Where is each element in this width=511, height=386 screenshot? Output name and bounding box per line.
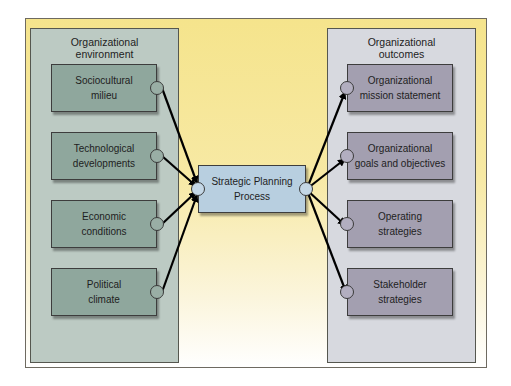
- connector-node-center-output: [299, 182, 313, 196]
- connector-node-sociocultural: [150, 81, 164, 95]
- connector-node-political: [150, 285, 164, 299]
- box-stakeholder-strategies: Stakeholder strategies: [347, 268, 453, 316]
- connector-node-operating: [340, 217, 354, 231]
- box-strategic-planning-process: Strategic Planning Process: [198, 165, 306, 213]
- connector-node-goals: [340, 149, 354, 163]
- connector-node-economic: [150, 217, 164, 231]
- box-sociocultural-milieu: Sociocultural milieu: [51, 64, 157, 112]
- connector-node-mission: [340, 81, 354, 95]
- connector-node-center-input: [191, 182, 205, 196]
- panel-title-environment: Organizational environment: [31, 36, 178, 60]
- box-mission-statement: Organizational mission statement: [347, 64, 453, 112]
- box-political-climate: Political climate: [51, 268, 157, 316]
- box-economic-conditions: Economic conditions: [51, 200, 157, 248]
- panel-title-outcomes: Organizational outcomes: [328, 36, 475, 60]
- box-goals-objectives: Organizational goals and objectives: [347, 132, 453, 180]
- connector-node-stakeholder: [340, 285, 354, 299]
- connector-node-technological: [150, 149, 164, 163]
- box-technological-developments: Technological developments: [51, 132, 157, 180]
- box-operating-strategies: Operating strategies: [347, 200, 453, 248]
